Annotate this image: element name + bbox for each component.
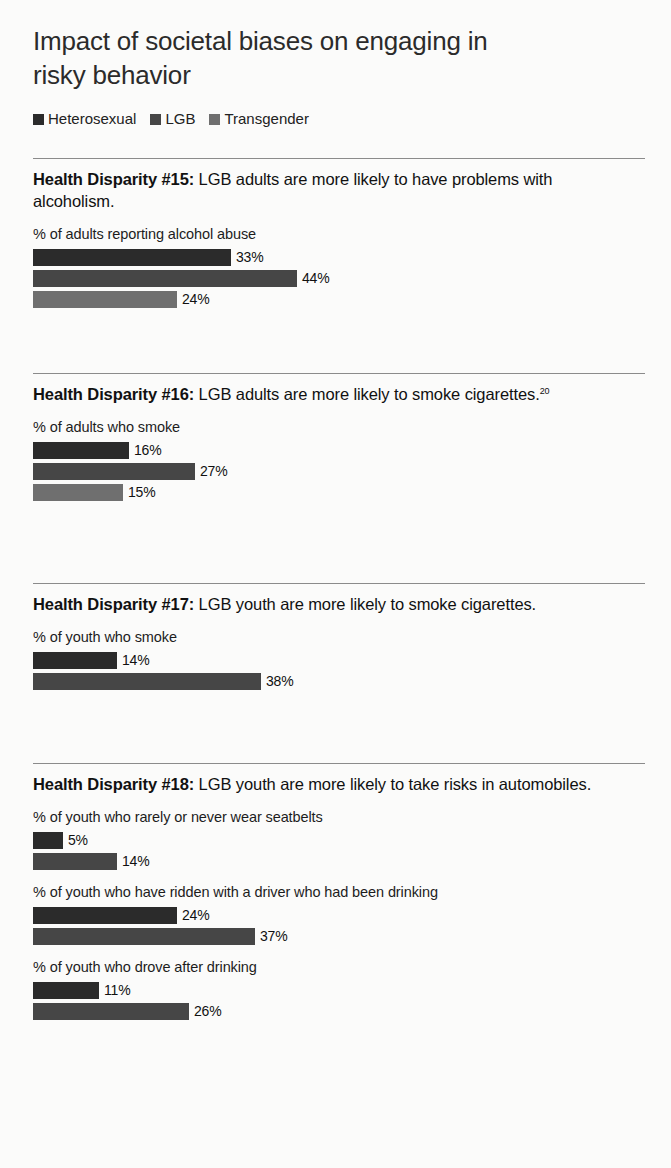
bar-row: 37% [33,928,645,945]
legend-item-transgender: Transgender [209,110,309,128]
legend-swatch-icon [150,114,161,125]
legend-label: LGB [165,110,195,128]
bar-group: 24%37% [33,907,645,945]
bar-row: 44% [33,270,645,287]
disparity-section-1: Health Disparity #15: LGB adults are mor… [33,158,645,312]
bar-lgb [33,463,195,480]
bar-row: 15% [33,484,645,501]
section-heading-label: Health Disparity #18: [33,775,194,793]
bar-lgb [33,270,297,287]
measure-sublabel: % of youth who smoke [33,627,645,647]
bar-row: 33% [33,249,645,266]
bar-value-label: 14% [122,853,149,870]
disparity-section-3: Health Disparity #17: LGB youth are more… [33,583,645,694]
measure-sublabel: % of adults who smoke [33,417,645,437]
legend-swatch-icon [209,114,220,125]
bar-row: 24% [33,291,645,308]
bar-value-label: 11% [104,982,130,999]
bar-value-label: 27% [200,463,227,480]
bar-row: 27% [33,463,645,480]
bar-value-label: 33% [236,249,263,266]
section-heading: Health Disparity #17: LGB youth are more… [33,593,593,615]
section-heading: Health Disparity #15: LGB adults are mor… [33,168,593,212]
bar-group: 16%27%15% [33,442,645,501]
bar-row: 26% [33,1003,645,1020]
bar-value-label: 5% [68,832,88,849]
measure-sublabel: % of youth who have ridden with a driver… [33,882,645,902]
legend-label: Transgender [224,110,309,128]
bar-value-label: 38% [266,673,293,690]
bar-value-label: 15% [128,484,155,501]
section-heading-text: LGB adults are more likely to smoke ciga… [194,385,540,403]
bar-group: 14%38% [33,652,645,690]
infographic-page: Impact of societal biases on engaging in… [0,0,671,1168]
section-heading-label: Health Disparity #15: [33,170,194,188]
bar-value-label: 37% [260,928,287,945]
bar-group: 11%26% [33,982,645,1020]
section-heading-text: LGB youth are more likely to take risks … [194,775,591,793]
bar-row: 14% [33,652,645,669]
section-heading-text: LGB youth are more likely to smoke cigar… [194,595,536,613]
measure-sublabel: % of youth who drove after drinking [33,957,645,977]
measure-sublabel: % of adults reporting alcohol abuse [33,224,645,244]
bar-value-label: 26% [194,1003,221,1020]
bar-value-label: 14% [122,652,149,669]
bar-heterosexual [33,442,129,459]
footnote-marker: 20 [540,386,550,396]
legend: HeterosexualLGBTransgender [33,110,309,128]
section-heading-label: Health Disparity #16: [33,385,194,403]
bar-heterosexual [33,907,177,924]
bar-value-label: 24% [182,907,209,924]
legend-item-lgb: LGB [150,110,195,128]
bar-group: 33%44%24% [33,249,645,308]
bar-transgender [33,291,177,308]
measure-sublabel: % of youth who rarely or never wear seat… [33,807,645,827]
legend-swatch-icon [33,114,44,125]
bar-heterosexual [33,249,231,266]
legend-item-heterosexual: Heterosexual [33,110,136,128]
page-title: Impact of societal biases on engaging in… [33,24,503,92]
bar-heterosexual [33,832,63,849]
bar-row: 5% [33,832,645,849]
section-heading: Health Disparity #18: LGB youth are more… [33,773,593,795]
bar-row: 14% [33,853,645,870]
bar-lgb [33,673,261,690]
bar-lgb [33,853,117,870]
disparity-section-4: Health Disparity #18: LGB youth are more… [33,763,645,1024]
disparity-section-2: Health Disparity #16: LGB adults are mor… [33,373,645,505]
bar-row: 11% [33,982,645,999]
bar-lgb [33,1003,189,1020]
section-divider [33,763,645,764]
legend-label: Heterosexual [48,110,136,128]
section-divider [33,158,645,159]
bar-row: 38% [33,673,645,690]
section-heading: Health Disparity #16: LGB adults are mor… [33,383,593,405]
section-heading-label: Health Disparity #17: [33,595,194,613]
bar-value-label: 24% [182,291,209,308]
bar-row: 16% [33,442,645,459]
bar-lgb [33,928,255,945]
bar-value-label: 44% [302,270,329,287]
bar-row: 24% [33,907,645,924]
bar-value-label: 16% [134,442,161,459]
section-divider [33,583,645,584]
bar-group: 5%14% [33,832,645,870]
bar-transgender [33,484,123,501]
bar-heterosexual [33,982,99,999]
bar-heterosexual [33,652,117,669]
section-divider [33,373,645,374]
